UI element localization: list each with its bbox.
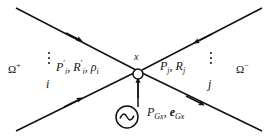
region-label-omega-plus: Ω+ — [8, 62, 21, 75]
ellipsis-dot — [48, 62, 50, 64]
ellipsis-dot — [210, 52, 212, 54]
omega-plus-superscript: + — [16, 61, 21, 70]
quantity-P-Gx: PGx — [147, 105, 164, 119]
quantity-e-Gx: eGx — [170, 105, 185, 119]
ellipsis-dot — [210, 57, 212, 59]
line-lower-right — [140, 72, 262, 131]
ellipsis-dot — [48, 52, 50, 54]
arrow-upper-right-inbound — [196, 34, 212, 42]
quantity-R-prime-i: R′i — [73, 60, 84, 74]
left-branch-index-label: i — [46, 78, 49, 90]
right-branch-index-label: j — [208, 78, 211, 90]
separator-comma: , — [85, 60, 91, 74]
separator-comma: , — [170, 59, 176, 73]
right-branch-ellipsis-icon — [209, 52, 212, 67]
omega-minus-symbol: Ω — [236, 63, 244, 75]
left-branch-ellipsis-icon — [47, 52, 50, 67]
right-branch-quantities-label: Pj, Rj — [160, 60, 185, 75]
region-label-omega-minus: Ω− — [236, 62, 249, 75]
arrow-lower-left-inbound — [64, 99, 80, 107]
quantity-P-prime-i: P′i — [56, 60, 67, 74]
ac-source-icon — [116, 106, 138, 128]
bus-node-marker — [133, 69, 143, 79]
arrow-upper-left-inbound — [66, 33, 80, 40]
quantity-R-j: Rj — [176, 59, 186, 73]
quantity-P-j: Pj — [160, 59, 170, 73]
bus-node-label: x — [134, 52, 138, 62]
source-quantities-label: PGx, eGx — [147, 106, 184, 121]
quantity-rho-i: ρi — [91, 60, 99, 74]
omega-plus-symbol: Ω — [8, 63, 16, 75]
ellipsis-dot — [48, 57, 50, 59]
ellipsis-dot — [210, 62, 212, 64]
figure-container: Ω+ Ω− P′i, R′i, ρi Pj, Rj i j x PGx, eGx — [0, 0, 277, 137]
left-branch-quantities-label: P′i, R′i, ρi — [56, 60, 99, 76]
omega-minus-superscript: − — [244, 61, 249, 70]
